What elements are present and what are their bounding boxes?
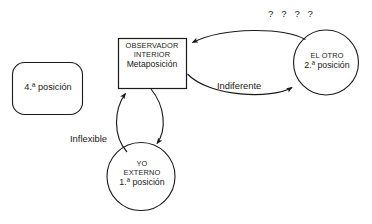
diagram-canvas: OBSERVADOR INTERIOR Metaposición EL OTRO…	[0, 0, 372, 224]
edge-observer-to-yo	[151, 89, 163, 144]
node-observer-interior	[119, 39, 187, 89]
node-fourth-position	[13, 63, 83, 115]
edge-observer-to-otro	[188, 74, 293, 95]
diagram-vector-layer	[0, 0, 372, 224]
edge-yo-to-observer	[117, 94, 128, 153]
node-yo-externo	[107, 143, 175, 211]
edge-otro-to-observer	[193, 30, 306, 42]
node-el-otro	[294, 30, 359, 95]
